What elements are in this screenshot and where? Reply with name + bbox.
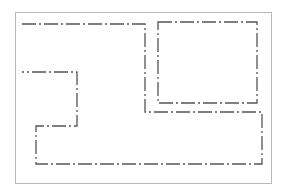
diagram-canvas: [0, 0, 288, 196]
diagram-svg: [0, 0, 288, 196]
frame-border: [16, 13, 272, 184]
